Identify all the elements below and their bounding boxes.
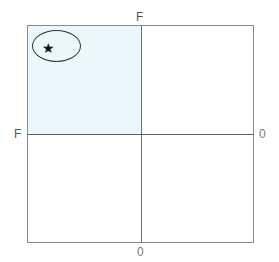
axis-label-right: 0 bbox=[259, 128, 266, 140]
axis-label-top: F bbox=[136, 11, 143, 23]
horizontal-axis-line bbox=[27, 134, 254, 135]
axis-label-left: F bbox=[14, 128, 21, 140]
star-icon: ★ bbox=[42, 41, 55, 55]
marker-ellipse bbox=[32, 30, 81, 62]
axis-label-bottom: 0 bbox=[137, 246, 144, 258]
